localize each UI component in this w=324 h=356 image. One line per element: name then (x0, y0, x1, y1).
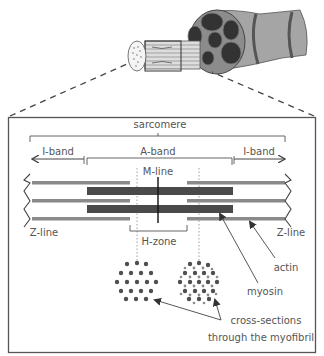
myofibril-bundle (128, 41, 200, 71)
z-line-left-label: Z-line (30, 227, 58, 238)
actin-label: actin (274, 262, 299, 273)
h-zone-label: H-zone (142, 236, 177, 247)
zoom-guide-lines (10, 64, 314, 116)
sarcomere-diagram: sarcomere I-band A-band I-band M-line Z-… (0, 0, 324, 356)
i-band-left-label: I-band (42, 146, 74, 157)
cross-sections-label-line1: cross-sections (231, 315, 302, 326)
cross-sections-label-line2: through the myofibril (208, 332, 314, 343)
i-band-right-label: I-band (243, 146, 275, 157)
sarcomere-label: sarcomere (134, 119, 187, 130)
muscle-illustration (128, 10, 307, 74)
myosin-label: myosin (247, 286, 283, 297)
z-line-right-label: Z-line (277, 227, 305, 238)
myofibril-end (128, 41, 146, 71)
m-line-label: M-line (143, 166, 173, 177)
a-band-label: A-band (140, 146, 175, 157)
